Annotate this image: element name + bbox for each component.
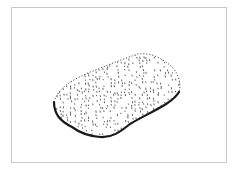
rock-illustration <box>0 0 240 170</box>
rock-bottom-edge <box>54 92 179 137</box>
rock-stipple-texture <box>52 52 184 142</box>
rock-top-edge <box>54 54 180 102</box>
